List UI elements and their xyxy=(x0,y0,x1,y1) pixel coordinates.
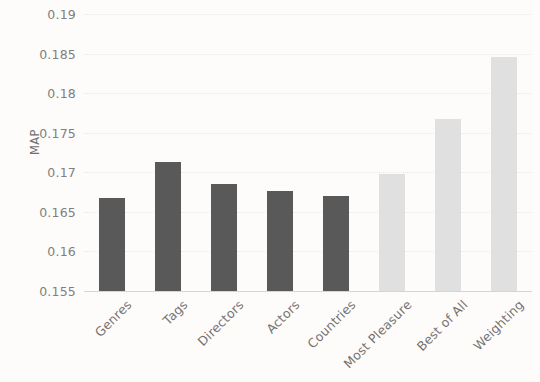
y-axis-tick-label: 0.175 xyxy=(10,125,76,140)
x-axis-tick-label: Countries xyxy=(304,297,358,351)
x-axis-tick-label: Actors xyxy=(263,297,302,336)
bar-chart: MAP 0.190.1850.180.1750.170.1650.160.155… xyxy=(0,0,540,382)
y-axis-tick-label: 0.185 xyxy=(10,46,76,61)
y-axis-tick-labels: 0.190.1850.180.1750.170.1650.160.155 xyxy=(8,14,76,291)
y-axis-tick-label: 0.19 xyxy=(10,7,76,22)
bar xyxy=(99,198,125,291)
y-axis-tick-label: 0.165 xyxy=(10,204,76,219)
y-axis-tick-label: 0.18 xyxy=(10,86,76,101)
bar xyxy=(323,196,349,291)
x-axis-tick-labels: GenresTagsDirectorsActorsCountriesMost P… xyxy=(84,293,532,381)
y-axis-tick-label: 0.16 xyxy=(10,244,76,259)
plot-area xyxy=(84,14,532,291)
bar xyxy=(267,191,293,291)
bar xyxy=(155,162,181,291)
x-axis-tick-label: Directors xyxy=(195,297,247,349)
x-axis-tick-label: Genres xyxy=(92,297,135,340)
y-axis-tick-label: 0.17 xyxy=(10,165,76,180)
bars-group xyxy=(84,14,532,291)
bar xyxy=(435,119,461,291)
x-axis-tick-label: Weighting xyxy=(470,297,526,353)
x-axis-tick-label: Best of All xyxy=(414,297,471,354)
bar xyxy=(379,174,405,291)
bar xyxy=(491,57,517,291)
y-axis-tick-label: 0.155 xyxy=(10,284,76,299)
x-axis-tick-label: Tags xyxy=(160,297,191,328)
bar xyxy=(211,184,237,291)
gridline xyxy=(84,291,532,292)
